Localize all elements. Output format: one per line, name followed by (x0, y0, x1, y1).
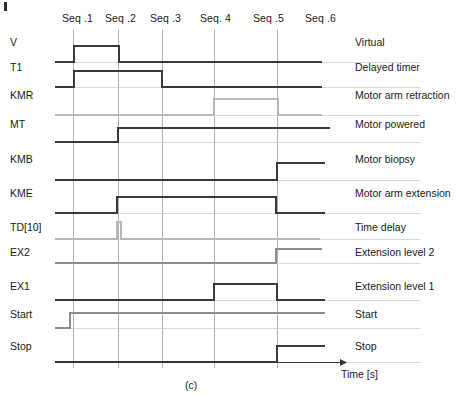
waveform-td-10- (55, 222, 320, 239)
time-axis-arrowhead (340, 359, 347, 366)
signal-name-stop: Stop (10, 340, 32, 352)
signal-description-t1: Delayed timer (355, 61, 420, 73)
waveform-mt (55, 128, 330, 142)
time-axis-label: Time [s] (341, 368, 378, 380)
signal-name-kme: KME (10, 187, 33, 199)
signal-name-v: V (10, 36, 17, 48)
waveform-stop (55, 346, 325, 362)
sequence-label-4: Seq. 4 (200, 12, 231, 24)
signal-name-start: Start (10, 308, 32, 320)
signal-name-t1: T1 (10, 61, 22, 73)
signal-description-td-10-: Time delay (355, 221, 406, 233)
signal-description-ex2: Extension level 2 (355, 246, 434, 258)
figure-caption: (c) (185, 379, 197, 391)
signal-name-ex2: EX2 (10, 246, 30, 258)
waveform-start (55, 313, 325, 328)
signal-description-kmr: Motor arm retraction (355, 89, 450, 101)
timing-diagram-figure: Seq .1Seq .2Seq .3Seq. 4Seq .5Seq .6 VT1… (0, 0, 464, 402)
signal-name-mt: MT (10, 118, 25, 130)
signal-description-start: Start (355, 308, 377, 320)
sequence-label-1: Seq .1 (62, 12, 93, 24)
waveform-v (55, 46, 322, 62)
signal-description-v: Virtual (355, 36, 385, 48)
signal-name-kmb: KMB (10, 153, 33, 165)
sequence-label-3: Seq .3 (150, 12, 181, 24)
waveform-t1 (55, 71, 322, 87)
waveform-ex1 (55, 284, 325, 300)
signal-name-kmr: KMR (10, 89, 33, 101)
signal-description-kme: Motor arm extension (355, 187, 451, 199)
signal-name-td-10-: TD[10] (10, 221, 42, 233)
waveform-kme (55, 197, 325, 213)
signal-description-kmb: Motor biopsy (355, 153, 415, 165)
waveform-kmb (55, 163, 325, 180)
sequence-label-2: Seq .2 (105, 12, 136, 24)
sequence-label-5: Seq .5 (253, 12, 284, 24)
signal-name-ex1: EX1 (10, 280, 30, 292)
signal-description-ex1: Extension level 1 (355, 280, 434, 292)
signal-description-stop: Stop (355, 340, 377, 352)
signal-description-mt: Motor powered (355, 118, 425, 130)
sequence-label-6: Seq .6 (305, 12, 336, 24)
waveform-kmr (55, 99, 322, 115)
waveform-ex2 (55, 249, 322, 263)
